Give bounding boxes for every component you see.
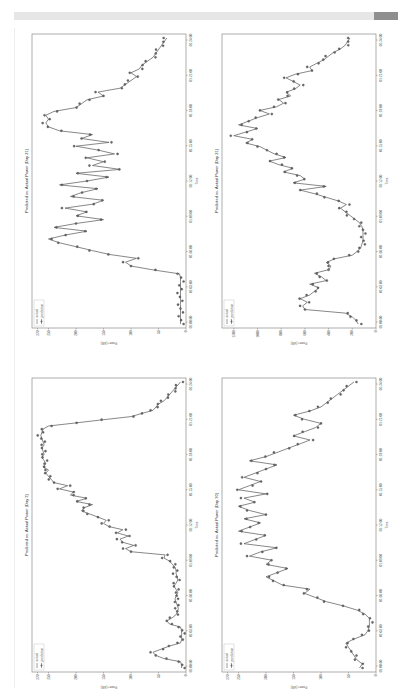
- prediction-marker: [178, 626, 180, 628]
- prediction-marker: [264, 534, 266, 536]
- prediction-marker: [43, 466, 45, 468]
- prediction-marker: [250, 460, 252, 462]
- prediction-marker: [175, 384, 177, 386]
- prediction-marker: [294, 414, 296, 416]
- prediction-marker: [361, 634, 363, 636]
- prediction-marker: [273, 464, 275, 466]
- svg-text:prediction: prediction: [40, 303, 44, 317]
- prediction-marker: [320, 422, 322, 424]
- y-tick-label: 50: [157, 330, 161, 334]
- line-chart: Predicted vs. Actual Power (Day 30)05010…: [212, 372, 394, 690]
- prediction-marker: [118, 168, 120, 170]
- x-tick-label: 01:09:00: [189, 554, 193, 567]
- prediction-marker: [49, 475, 51, 477]
- prediction-marker: [323, 601, 325, 603]
- prediction-marker: [277, 98, 279, 100]
- prediction-marker: [169, 617, 171, 619]
- prediction-marker: [176, 273, 178, 275]
- prediction-marker: [181, 300, 183, 302]
- prediction-marker: [299, 305, 301, 307]
- y-axis-label: Power (kW): [101, 685, 118, 689]
- x-axis-label: Time: [385, 521, 389, 528]
- prediction-marker: [318, 62, 320, 64]
- y-tick-label: 800: [279, 330, 283, 336]
- x-axis-label: Time: [195, 177, 199, 184]
- prediction-marker: [69, 485, 71, 487]
- prediction-marker: [241, 124, 243, 126]
- prediction-marker: [240, 530, 242, 532]
- prediction-marker: [101, 419, 103, 421]
- prediction-marker: [347, 41, 349, 43]
- prediction-marker: [154, 56, 156, 58]
- prediction-marker: [293, 88, 295, 90]
- prediction-marker: [179, 635, 181, 637]
- x-tick-label: 01:15:00: [379, 139, 383, 152]
- prediction-marker: [177, 613, 179, 615]
- prediction-marker: [115, 532, 117, 534]
- prediction-marker: [355, 319, 357, 321]
- y-tick-label: 50: [157, 674, 161, 678]
- prediction-marker: [80, 137, 82, 139]
- prediction-marker: [73, 145, 75, 147]
- prediction-marker: [360, 222, 362, 224]
- x-tick-label: 01:00:00: [189, 316, 193, 329]
- x-tick-label: 01:21:00: [379, 69, 383, 82]
- prediction-marker: [155, 52, 157, 54]
- prediction-marker: [297, 73, 299, 75]
- x-tick-label: 01:09:00: [379, 554, 383, 567]
- prediction-marker: [61, 207, 63, 209]
- x-tick-label: 01:03:00: [379, 280, 383, 293]
- prediction-marker: [122, 547, 124, 549]
- y-axis-label: Power (kW): [291, 685, 308, 689]
- prediction-marker: [132, 415, 134, 417]
- prediction-marker: [57, 488, 59, 490]
- prediction-marker: [65, 234, 67, 236]
- prediction-marker: [308, 301, 310, 303]
- prediction-marker: [130, 551, 132, 553]
- x-tick-label: 01:12:00: [379, 175, 383, 188]
- prediction-marker: [173, 582, 175, 584]
- svg-text:actual: actual: [35, 653, 39, 662]
- x-tick-label: 01:03:00: [189, 624, 193, 637]
- prediction-marker: [88, 99, 90, 101]
- x-tick-label: 01:09:00: [379, 210, 383, 223]
- prediction-marker: [88, 249, 90, 251]
- prediction-marker: [77, 215, 79, 217]
- prediction-marker: [303, 592, 305, 594]
- prediction-marker: [182, 311, 184, 313]
- plot-area: [32, 378, 186, 672]
- prediction-marker: [298, 298, 300, 300]
- prediction-marker: [79, 103, 81, 105]
- x-tick-label: 01:24:00: [189, 378, 193, 391]
- prediction-marker: [368, 630, 370, 632]
- prediction-marker: [246, 509, 248, 511]
- prediction-marker: [61, 184, 63, 186]
- prediction-marker: [172, 573, 174, 575]
- prediction-marker: [155, 48, 157, 50]
- prediction-marker: [105, 176, 107, 178]
- prediction-marker: [265, 468, 267, 470]
- prediction-marker: [178, 315, 180, 317]
- prediction-marker: [323, 185, 325, 187]
- prediction-marker: [255, 538, 257, 540]
- prediction-marker: [167, 397, 169, 399]
- prediction-marker: [44, 469, 46, 471]
- x-tick-label: 01:03:00: [189, 280, 193, 293]
- x-tick-label: 01:18:00: [379, 448, 383, 461]
- prediction-marker: [44, 472, 46, 474]
- prediction-marker: [181, 629, 183, 631]
- prediction-marker: [177, 598, 179, 600]
- prediction-marker: [41, 456, 43, 458]
- prediction-marker: [315, 290, 317, 292]
- prediction-marker: [44, 441, 46, 443]
- prediction-marker: [319, 276, 321, 278]
- x-tick-label: 01:21:00: [189, 69, 193, 82]
- y-tick-label: 1000: [256, 330, 260, 337]
- prediction-marker: [101, 522, 103, 524]
- prediction-marker: [362, 663, 364, 665]
- prediction-marker: [266, 493, 268, 495]
- prediction-marker: [333, 258, 335, 260]
- prediction-marker: [46, 459, 48, 461]
- page-margin-rule: [14, 28, 15, 688]
- prediction-marker: [327, 402, 329, 404]
